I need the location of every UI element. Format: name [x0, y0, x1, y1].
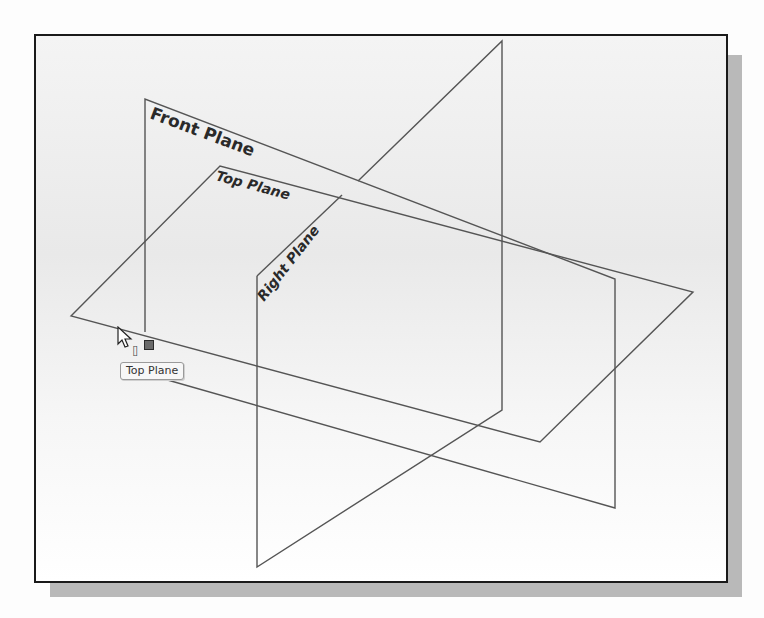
planes-canvas[interactable]: Front Plane Top Plane Right Plane	[0, 0, 764, 618]
top-plane[interactable]: Top Plane	[71, 166, 693, 442]
plane-select-handle-icon	[144, 340, 154, 350]
front-plane-label[interactable]: Front Plane	[148, 103, 258, 160]
plane-select-icon: ⌷	[132, 346, 139, 357]
tooltip: Top Plane	[120, 362, 184, 380]
page: Front Plane Top Plane Right Plane ⌷ Top …	[0, 0, 764, 618]
right-plane-label[interactable]: Right Plane	[254, 222, 323, 304]
right-plane-edges[interactable]	[257, 41, 502, 567]
top-plane-label[interactable]: Top Plane	[214, 167, 292, 202]
top-plane-edges[interactable]	[71, 166, 693, 442]
right-plane[interactable]: Right Plane	[254, 41, 502, 567]
